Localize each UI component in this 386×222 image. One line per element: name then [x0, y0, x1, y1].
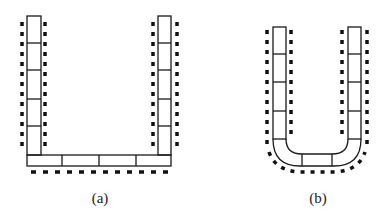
diagram-canvas [0, 0, 386, 222]
right-column-a [158, 16, 171, 155]
figure-a-label: (a) [92, 190, 109, 207]
figure-a [27, 16, 171, 166]
figure-b [273, 27, 361, 166]
dashed-outline-b [267, 30, 367, 172]
right-column-b [348, 27, 361, 139]
rounded-bottom-inner [286, 139, 348, 154]
dashed-outline-a [22, 22, 177, 172]
left-column-a [27, 16, 41, 155]
left-column-b [273, 27, 286, 139]
figure-b-label: (b) [309, 190, 327, 207]
